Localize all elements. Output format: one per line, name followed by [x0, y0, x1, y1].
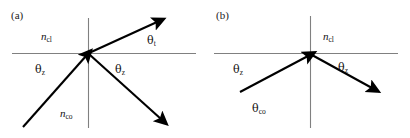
panel-a-theta-incident-symbol: θ	[35, 63, 42, 76]
panel-a-nco-symbol: n	[60, 107, 66, 119]
panel-a-transmitted-angle-label: θt	[147, 35, 156, 46]
panel-b-reflected-angle-label: θz	[338, 62, 348, 73]
panel-b-theta-co-subscript: co	[259, 107, 266, 116]
panel-b-incident-ray	[240, 56, 308, 92]
panel-b-ncl-symbol: n	[323, 30, 329, 42]
panel-b-theta-reflected-symbol: θ	[338, 61, 345, 74]
figure-container: (a) ncl nco θz θz θt (b)	[0, 0, 410, 138]
panel-a-incident-angle-label: θz	[35, 64, 45, 75]
panel-a-diagram	[0, 0, 205, 138]
panel-b-cladding-index-label: ncl	[323, 31, 334, 42]
panel-a-theta-reflected-symbol: θ	[115, 63, 122, 76]
panel-a-theta-reflected-subscript: z	[122, 68, 125, 77]
panel-a-core-index-label: nco	[60, 108, 73, 119]
panel-a-incident-ray	[23, 56, 86, 127]
panel-a-ncl-subscript: cl	[47, 35, 52, 44]
panel-b-ncl-subscript: cl	[329, 35, 334, 44]
panel-a-reflected-angle-label: θz	[115, 64, 125, 75]
panel-b-critical-angle-label: θco	[252, 103, 266, 114]
panel-a: (a) ncl nco θz θz θt	[0, 0, 205, 138]
panel-b-incident-angle-label: θz	[233, 64, 243, 75]
panel-b-theta-incident-subscript: z	[240, 68, 243, 77]
panel-a-reflected-ray	[90, 55, 161, 119]
panel-a-ncl-symbol: n	[41, 30, 47, 42]
panel-a-theta-incident-subscript: z	[42, 68, 45, 77]
panel-a-nco-subscript: co	[66, 112, 73, 121]
panel-a-cladding-index-label: ncl	[41, 31, 52, 42]
panel-a-theta-transmitted-subscript: t	[154, 39, 156, 48]
panel-b-theta-co-symbol: θ	[252, 102, 259, 115]
panel-b-theta-reflected-subscript: z	[345, 66, 348, 75]
panel-b-theta-incident-symbol: θ	[233, 63, 240, 76]
panel-a-theta-transmitted-symbol: θ	[147, 34, 154, 47]
panel-b: (b) ncl θco θz θz	[205, 0, 410, 138]
